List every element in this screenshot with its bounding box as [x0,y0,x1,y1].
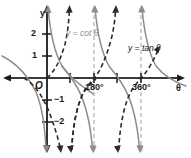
tan-branch-2-arrow-bottom [114,145,121,153]
tan-branch-neg1-arrow-bottom [57,145,64,153]
y-axis-label: y [40,9,45,18]
cot-curve-label: y = cot θ [66,29,98,38]
y-tick-label-2: 2 [31,29,36,38]
x-axis-arrow-right [177,75,185,82]
x-axis-label: θ [176,84,181,93]
trig-graph-figure: y θ O 2 1 −1 −2 180° 360° y = cot θ y = … [0,0,191,158]
y-tick-label-neg1: −1 [54,95,64,104]
x-axis-arrow-left [3,75,11,82]
graph-canvas [0,0,191,158]
tan-branch-neg1-arrow-top [66,5,73,13]
cot-branch-neg1 [2,56,46,150]
tan-branch-1-arrow-top [112,5,119,13]
x-tick-label-180: 180° [85,83,104,92]
tan-branch-1-arrow-bottom [67,145,74,153]
y-tick-label-1: 1 [32,51,37,60]
y-tick-label-neg2: −2 [54,117,64,126]
x-tick-label-360: 360° [132,83,151,92]
tan-branch-neg1-up [47,10,69,78]
tan-curve-label: y = tan θ [128,44,161,53]
origin-label: O [35,81,43,91]
